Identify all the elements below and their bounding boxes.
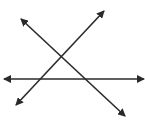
rising-line [16,11,104,105]
intersecting-lines-diagram [0,0,145,124]
falling-line [21,19,125,116]
